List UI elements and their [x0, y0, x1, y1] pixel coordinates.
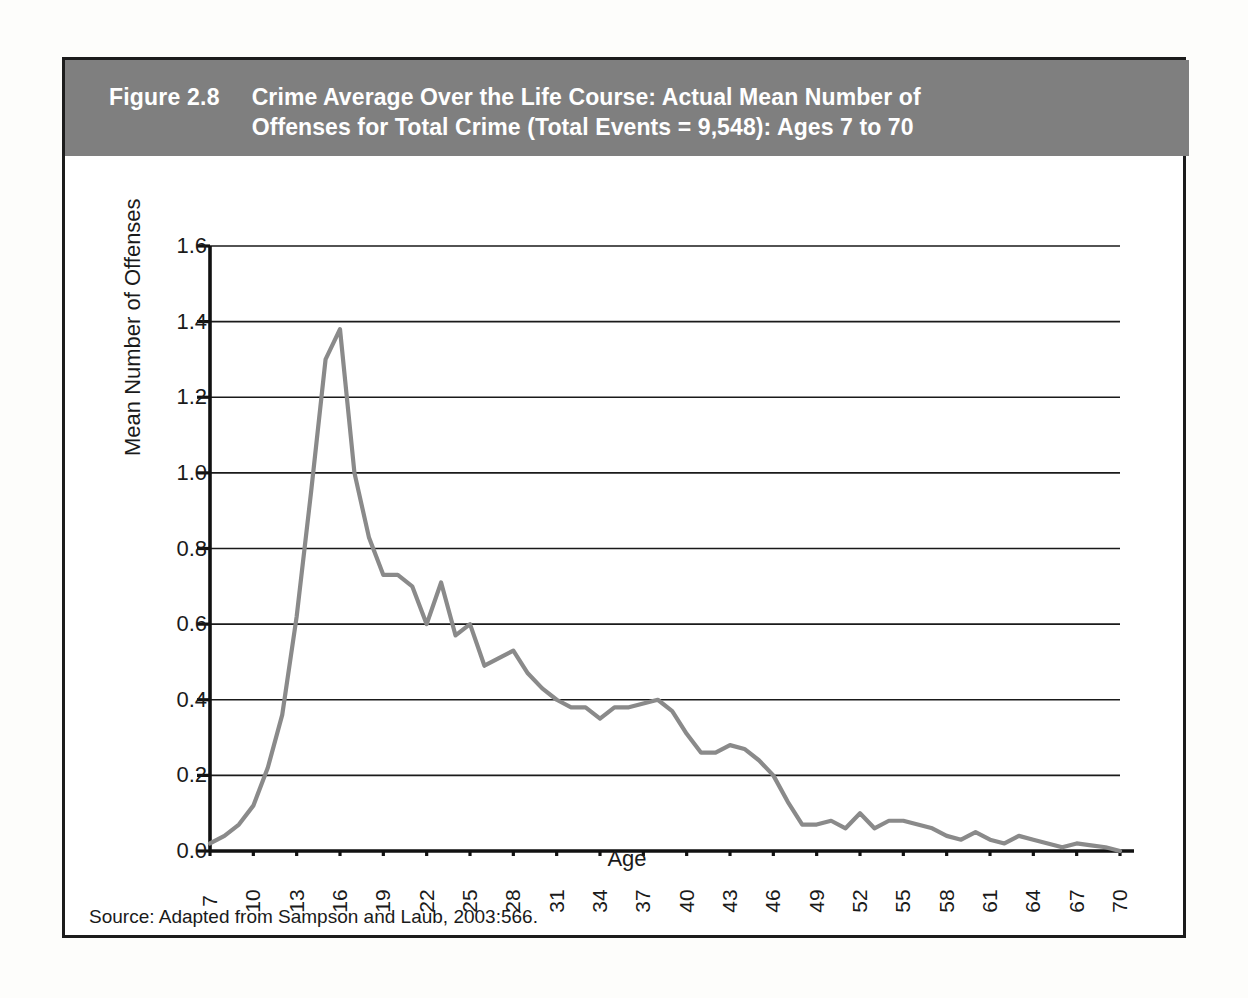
source-note: Source: Adapted from Sampson and Laub, 2…: [89, 906, 538, 928]
x-tick-label: 55: [891, 887, 915, 915]
x-axis-label: Age: [65, 846, 1189, 872]
title-row: Figure 2.8 Crime Average Over the Life C…: [109, 82, 1169, 142]
y-tick-label: 0.6: [137, 611, 207, 637]
y-axis-tick-labels: 0.00.20.40.60.81.01.21.41.6: [137, 156, 207, 796]
figure-number: Figure 2.8: [109, 82, 220, 112]
x-tick-label: 52: [848, 887, 872, 915]
x-tick-label: 70: [1108, 887, 1132, 915]
x-tick-label: 31: [545, 887, 569, 915]
figure-title-line-2: Offenses for Total Crime (Total Events =…: [252, 112, 921, 142]
y-tick-label: 0.4: [137, 687, 207, 713]
line-chart: [65, 156, 1189, 856]
y-tick-label: 0.8: [137, 536, 207, 562]
x-tick-label: 61: [978, 887, 1002, 915]
y-tick-label: 1.4: [137, 309, 207, 335]
x-tick-label: 46: [761, 887, 785, 915]
x-tick-label: 43: [718, 887, 742, 915]
y-tick-label: 1.2: [137, 384, 207, 410]
y-tick-label: 0.2: [137, 762, 207, 788]
x-tick-label: 49: [805, 887, 829, 915]
figure-title-line-1: Crime Average Over the Life Course: Actu…: [252, 82, 921, 112]
x-tick-label: 40: [675, 887, 699, 915]
x-tick-label: 67: [1065, 887, 1089, 915]
figure-title: Crime Average Over the Life Course: Actu…: [252, 82, 921, 142]
x-tick-label: 58: [935, 887, 959, 915]
x-tick-label: 37: [631, 887, 655, 915]
plot-area-wrapper: Mean Number of Offenses 0.00.20.40.60.81…: [65, 156, 1189, 941]
gridlines: [210, 246, 1120, 851]
data-line-total-crime: [210, 329, 1120, 851]
x-tick-label: 34: [588, 887, 612, 915]
y-tick-label: 1.0: [137, 460, 207, 486]
figure-title-band: Figure 2.8 Crime Average Over the Life C…: [65, 60, 1189, 156]
x-tick-label: 64: [1021, 887, 1045, 915]
figure-frame: Figure 2.8 Crime Average Over the Life C…: [62, 57, 1186, 938]
y-tick-label: 1.6: [137, 233, 207, 259]
